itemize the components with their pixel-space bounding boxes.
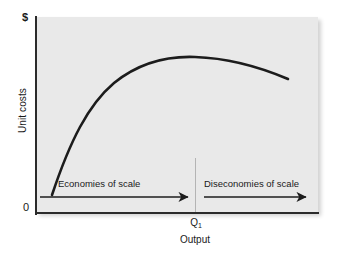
y-axis-currency-symbol: $ <box>22 11 28 23</box>
y-axis-title: Unit costs <box>17 76 28 146</box>
economies-of-scale-chart: Economies of scale Diseconomies of scale… <box>0 0 341 267</box>
x-axis-q1-label: Q1 <box>176 217 216 230</box>
x-axis-line <box>35 212 319 214</box>
y-axis-origin-label: 0 <box>23 201 29 213</box>
x-axis-title: Output <box>150 234 240 246</box>
q1-base: Q <box>190 217 198 228</box>
plot-area: Economies of scale Diseconomies of scale <box>36 17 318 213</box>
y-axis-line <box>35 16 37 215</box>
annotation-arrows <box>36 17 318 213</box>
q1-subscript: 1 <box>198 222 202 229</box>
